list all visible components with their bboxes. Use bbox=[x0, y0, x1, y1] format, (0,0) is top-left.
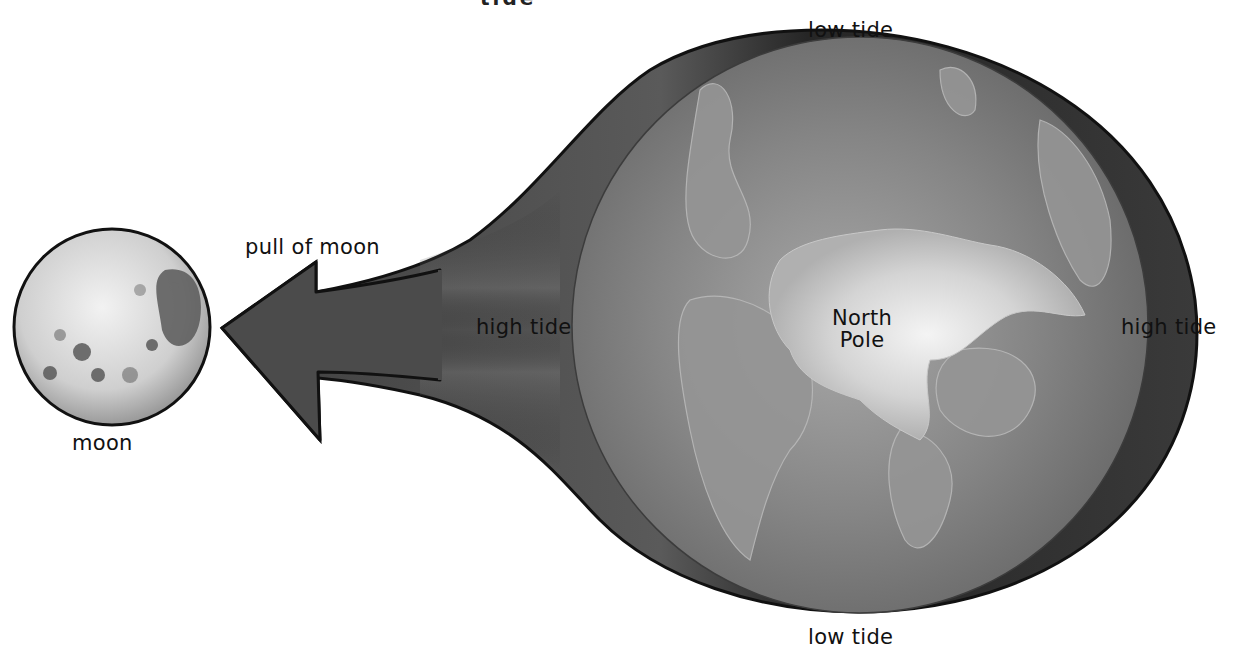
label-moon: moon bbox=[72, 433, 133, 454]
label-low-tide-top: low tide bbox=[808, 20, 893, 41]
label-low-tide-bottom: low tide bbox=[808, 627, 893, 648]
label-north-pole: North Pole bbox=[822, 308, 902, 351]
label-high-tide-left: high tide bbox=[476, 317, 571, 338]
tide-diagram: tide bbox=[0, 0, 1247, 658]
label-north-pole-line2: Pole bbox=[822, 330, 902, 351]
diagram-canvas bbox=[0, 0, 1247, 658]
label-pull-of-moon: pull of moon bbox=[245, 237, 380, 258]
label-high-tide-right: high tide bbox=[1121, 317, 1216, 338]
moon-sphere bbox=[14, 229, 210, 425]
pull-arrow bbox=[222, 262, 440, 440]
label-north-pole-line1: North bbox=[822, 308, 902, 329]
diagram-title-fragment: tide bbox=[480, 0, 536, 10]
